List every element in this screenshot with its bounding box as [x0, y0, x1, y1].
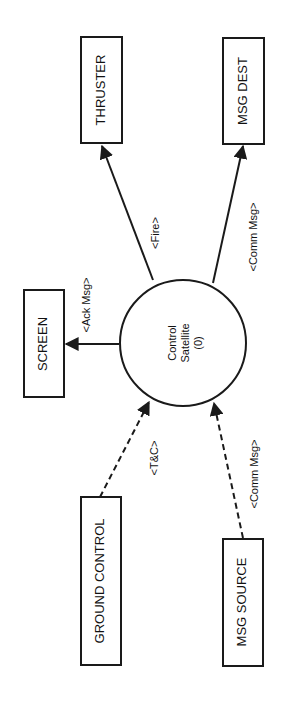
entity-msg-source: MSG SOURCE: [223, 539, 263, 666]
flow-comm-msg-in-arrow: [214, 403, 243, 538]
process-label-line1: Control: [166, 325, 178, 360]
entity-msg-dest-label: MSG DEST: [235, 57, 250, 125]
flow-tc-arrow: [100, 402, 149, 497]
entity-thruster: THRUSTER: [81, 37, 122, 143]
entity-thruster-label: THRUSTER: [93, 55, 108, 126]
process-label-line2: Satellite: [179, 323, 191, 362]
process-control-satellite: Control Satellite (0): [120, 280, 246, 406]
entity-msg-source-label: MSG SOURCE: [234, 557, 249, 646]
flow-fire-arrow: [102, 146, 153, 280]
flow-fire-label: <Fire>: [149, 217, 161, 249]
flow-ack-msg-label: <Ack Msg>: [80, 277, 92, 332]
flow-comm-msg-out-label: <Comm Msg>: [247, 202, 259, 271]
flow-comm-msg-in-label: <Comm Msg>: [248, 439, 260, 508]
process-label-line3: (0): [192, 336, 204, 349]
context-diagram: Control Satellite (0) THRUSTER MSG DEST …: [0, 0, 282, 726]
flow-tc-label: <T&C>: [148, 441, 160, 476]
entity-screen-label: SCREEN: [35, 317, 50, 371]
entity-ground-control-label: GROUND CONTROL: [92, 519, 107, 644]
entity-msg-dest: MSG DEST: [223, 38, 264, 144]
entity-ground-control: GROUND CONTROL: [81, 497, 121, 665]
flow-comm-msg-out-arrow: [213, 146, 243, 283]
entity-screen: SCREEN: [24, 290, 64, 397]
